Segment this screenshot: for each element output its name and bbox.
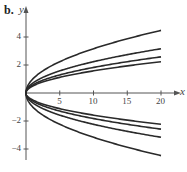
y-tick-label: 2 <box>17 60 22 69</box>
y-tick-label: 4 <box>17 32 22 41</box>
y-tick-label: −4 <box>11 144 21 153</box>
x-tick-label: 15 <box>122 97 131 106</box>
x-tick-label: 10 <box>89 97 98 106</box>
panel-label: b. <box>4 4 14 16</box>
y-axis-label: y <box>19 4 24 15</box>
x-axis-label: x <box>180 86 185 97</box>
y-axis-arrow-icon <box>24 6 29 13</box>
chart-plot <box>0 0 187 172</box>
y-tick-label: −2 <box>11 116 21 125</box>
x-tick-label: 5 <box>57 97 62 106</box>
x-tick-label: 20 <box>156 97 165 106</box>
curve-line <box>26 62 161 93</box>
